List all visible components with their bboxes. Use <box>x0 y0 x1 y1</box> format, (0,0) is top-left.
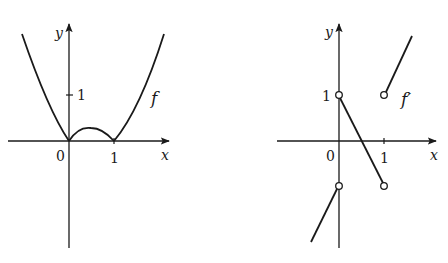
f-prime-segment-positive-x <box>386 36 412 92</box>
right-graph-f-prime: y 1 0 1 x f′ <box>277 24 438 248</box>
open-circle-0-neg1 <box>336 183 343 190</box>
right-y-axis-label: y <box>324 24 334 40</box>
left-x-tick-label: 1 <box>110 150 119 166</box>
left-origin-label: 0 <box>56 148 65 164</box>
open-circle-1-1 <box>381 92 388 99</box>
left-x-axis-label: x <box>161 147 169 163</box>
right-x-tick-label: 1 <box>380 150 389 166</box>
left-y-axis-label: y <box>54 25 64 41</box>
left-graph-f: y 1 0 1 x f <box>8 24 169 248</box>
f-prime-segment-negative-x <box>311 189 337 242</box>
right-x-axis-label: x <box>430 147 438 163</box>
left-y-tick-label: 1 <box>77 87 86 103</box>
curve-f-left-branch <box>22 34 69 141</box>
left-function-label: f <box>149 88 160 108</box>
curve-f-hump <box>69 128 114 141</box>
open-circle-1-neg1 <box>381 183 388 190</box>
right-y-tick-label: 1 <box>322 88 331 104</box>
open-circle-0-1 <box>336 92 343 99</box>
figure-canvas: y 1 0 1 x f y 1 0 1 x f′ <box>0 0 448 263</box>
right-function-label: f′ <box>399 89 411 109</box>
right-origin-label: 0 <box>326 148 335 164</box>
